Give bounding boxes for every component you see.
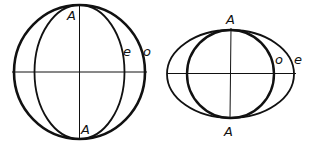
right-figure: A A o e [167,12,302,139]
right-label-a-bottom: A [223,124,233,139]
left-figure: A A e o [12,5,151,139]
right-label-e: e [294,52,302,67]
left-label-e: e [123,44,131,59]
left-label-o: o [143,44,151,59]
left-label-a-top: A [66,8,76,23]
wavefront-diagram: A A e o A A o e [0,0,311,145]
right-label-a-top: A [225,12,235,27]
left-label-a-bottom: A [80,122,90,137]
right-label-o: o [275,52,283,67]
right-vertical-axis [230,28,231,118]
